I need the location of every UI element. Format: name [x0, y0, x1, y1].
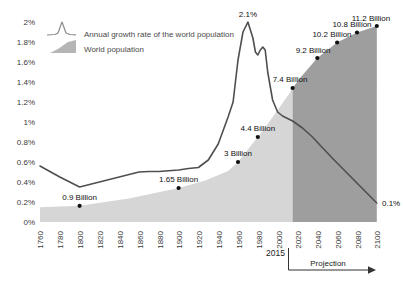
label-9-2-billion: 9.2 Billion [296, 46, 331, 55]
marker-4-4-billion [256, 135, 260, 139]
x-tick-1860: 1860 [136, 230, 145, 248]
label-end-rate: 0.1% [382, 199, 400, 208]
y-tick-2: 2% [23, 18, 35, 27]
y-tick-1-2: 1.2% [17, 98, 35, 107]
marker-7-4-billion [291, 86, 295, 90]
y-tick-0-6: 0.6% [17, 158, 35, 167]
projection-label: Projection [310, 259, 346, 268]
label-0-9-billion: 0.9 Billion [62, 193, 97, 202]
x-tick-2040: 2040 [314, 230, 323, 248]
x-tick-1760: 1760 [36, 230, 45, 248]
marker-9-2-billion [315, 56, 319, 60]
label-10-2-billion: 10.2 Billion [312, 30, 351, 39]
label-7-4-billion: 7.4 Billion [273, 75, 308, 84]
marker-0-9-billion [78, 204, 82, 208]
y-tick-0: 0% [23, 218, 35, 227]
x-tick-1920: 1920 [195, 230, 204, 248]
chart-canvas: 2% 1.8% 1.6% 1.4% 1.2% 1% 0.8% 0.6% 0.4%… [0, 0, 403, 282]
label-3-billion: 3 Billion [224, 149, 252, 158]
y-tick-1-8: 1.8% [17, 38, 35, 47]
x-tick-1940: 1940 [215, 230, 224, 248]
x-tick-1900: 1900 [175, 230, 184, 248]
marker-1-65-billion [177, 186, 181, 190]
population-growth-chart: 2% 1.8% 1.6% 1.4% 1.2% 1% 0.8% 0.6% 0.4%… [0, 0, 403, 282]
x-tick-1820: 1820 [96, 230, 105, 248]
x-tick-1980: 1980 [255, 230, 264, 248]
label-11-2-billion: 11.2 Billion [352, 14, 391, 23]
x-tick-1880: 1880 [156, 230, 165, 248]
projection-year-label: 2015 [266, 248, 285, 258]
y-tick-1: 1% [23, 118, 35, 127]
x-tick-1960: 1960 [235, 230, 244, 248]
legend-item-world-population-label: World population [84, 45, 144, 54]
marker-10-8-billion [355, 30, 359, 34]
x-tick-2060: 2060 [334, 230, 343, 248]
legend-item-growth-rate-label: Annual growth rate of the world populati… [84, 30, 234, 39]
label-1-65-billion: 1.65 Billion [159, 175, 198, 184]
label-4-4-billion: 4.4 Billion [240, 124, 275, 133]
y-tick-0-2: 0.2% [17, 198, 35, 207]
marker-10-2-billion [335, 40, 339, 44]
y-tick-0-8: 0.8% [17, 138, 35, 147]
y-tick-1-6: 1.6% [17, 58, 35, 67]
x-tick-2020: 2020 [294, 230, 303, 248]
y-tick-0-4: 0.4% [17, 178, 35, 187]
x-tick-2100: 2100 [373, 230, 382, 248]
y-tick-1-4: 1.4% [17, 78, 35, 87]
label-peak-rate: 2.1% [239, 10, 257, 19]
marker-3-billion [236, 160, 240, 164]
x-tick-1780: 1780 [56, 230, 65, 248]
marker-11-2-billion [375, 24, 379, 28]
x-tick-2080: 2080 [354, 230, 363, 248]
x-tick-1840: 1840 [116, 230, 125, 248]
x-tick-1800: 1800 [76, 230, 85, 248]
x-tick-2000: 2000 [275, 230, 284, 248]
